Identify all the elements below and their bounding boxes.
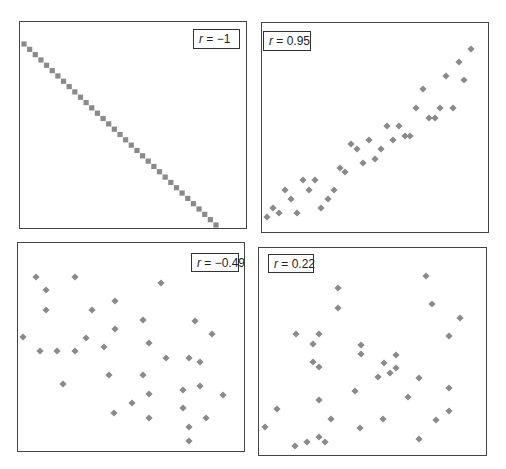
scatter-panel-4 (258, 247, 487, 456)
correlation-label: r = 0.95 (263, 31, 311, 51)
correlation-value: = −1 (203, 32, 230, 46)
scatter-panel-1 (19, 21, 247, 229)
correlation-label: r = 0.22 (268, 254, 314, 273)
correlation-label: r = −0.49 (191, 253, 239, 272)
correlation-label: r = −1 (193, 29, 240, 49)
scatter-panel-3 (17, 242, 245, 452)
correlation-value: = −0.49 (201, 256, 245, 270)
scatter-panel-2 (261, 22, 489, 233)
correlation-value: = 0.22 (278, 257, 315, 271)
correlation-value: = 0.95 (273, 34, 310, 48)
